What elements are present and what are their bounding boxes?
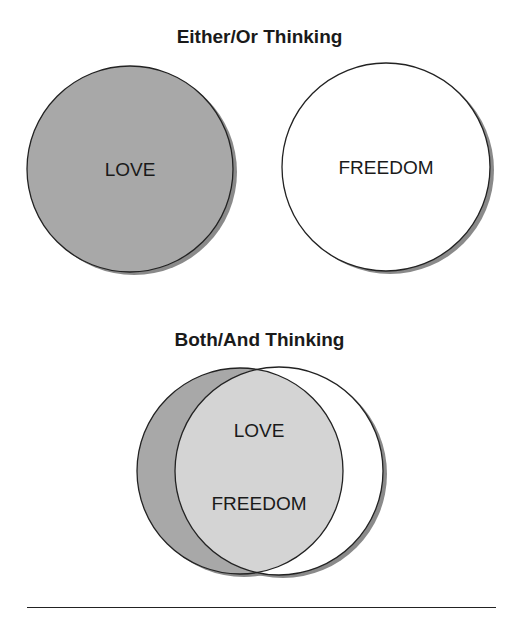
freedom-label: FREEDOM <box>339 157 434 178</box>
both-and-venn: LOVE FREEDOM <box>137 367 387 578</box>
either-or-freedom-circle: FREEDOM <box>282 63 494 274</box>
venn-freedom-label: FREEDOM <box>212 493 307 514</box>
love-label: LOVE <box>105 159 156 180</box>
diagram-canvas: LOVE FREEDOM LOVE FREEDOM <box>0 0 519 621</box>
either-or-love-circle: LOVE <box>27 66 237 275</box>
horizontal-rule <box>27 607 496 608</box>
venn-love-label: LOVE <box>234 420 285 441</box>
